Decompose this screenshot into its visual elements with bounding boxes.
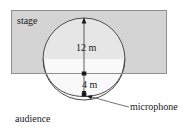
microphone-leader-line (90, 97, 130, 108)
dimension-label-4m: 4 m (82, 80, 97, 90)
stage-label: stage (17, 16, 38, 26)
audience-label: audience (15, 114, 51, 124)
dimension-tick-mid (82, 72, 87, 76)
microphone-label: microphone (130, 102, 178, 112)
figure-container: stage 12 m 4 m microphone audience (0, 0, 187, 130)
dimension-label-12m: 12 m (76, 43, 96, 53)
